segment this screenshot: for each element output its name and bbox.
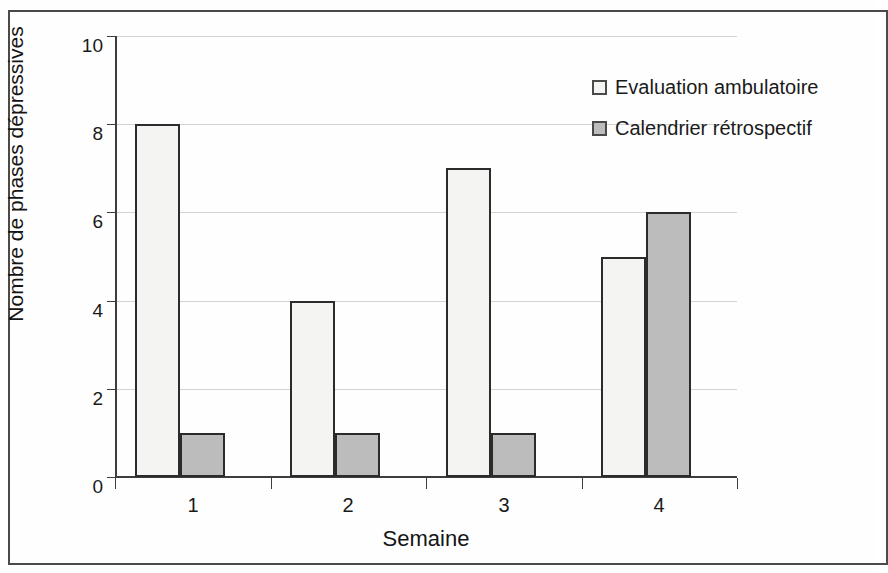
- bar-4-series-1: [646, 212, 691, 477]
- bar-3-series-0: [446, 168, 491, 477]
- bar-3-series-1: [491, 433, 536, 477]
- y-axis-tick-label: 8: [59, 124, 103, 143]
- x-axis-title: Semaine: [115, 526, 737, 552]
- x-axis-tick: [737, 478, 738, 489]
- x-axis-tick-label: 2: [313, 494, 383, 517]
- bar-1-series-1: [180, 433, 225, 477]
- x-axis-tick: [426, 478, 427, 489]
- y-axis-tick-label: 6: [59, 212, 103, 231]
- y-axis-tick: [107, 301, 115, 302]
- x-axis-tick-label: 4: [624, 494, 694, 517]
- bar-1-series-0: [135, 124, 180, 477]
- x-axis-tick-label: 1: [158, 494, 228, 517]
- y-axis-title: Nombre de phases dépressives: [4, 0, 28, 374]
- y-axis-tick-label: 0: [59, 477, 103, 496]
- legend-item: Evaluation ambulatoire: [592, 76, 818, 99]
- y-axis-tick-label: 2: [59, 389, 103, 408]
- y-axis-tick: [107, 477, 115, 478]
- legend-swatch-icon: [592, 121, 607, 136]
- x-axis-tick: [115, 478, 116, 489]
- y-axis-tick-label: 4: [59, 301, 103, 320]
- chart-legend: Evaluation ambulatoireCalendrier rétrosp…: [592, 76, 818, 140]
- y-axis-tick-label: 10: [59, 36, 103, 55]
- legend-label: Evaluation ambulatoire: [615, 76, 818, 99]
- legend-swatch-icon: [592, 80, 607, 95]
- bar-2-series-1: [335, 433, 380, 477]
- y-axis-tick: [107, 124, 115, 125]
- legend-label: Calendrier rétrospectif: [615, 117, 812, 140]
- legend-item: Calendrier rétrospectif: [592, 117, 818, 140]
- y-axis-tick: [107, 389, 115, 390]
- x-axis-tick-label: 3: [469, 494, 539, 517]
- x-axis-tick: [582, 478, 583, 489]
- x-axis-tick: [271, 478, 272, 489]
- y-axis-tick: [107, 36, 115, 37]
- bar-2-series-0: [290, 301, 335, 477]
- y-axis-tick: [107, 212, 115, 213]
- bar-4-series-0: [601, 257, 646, 478]
